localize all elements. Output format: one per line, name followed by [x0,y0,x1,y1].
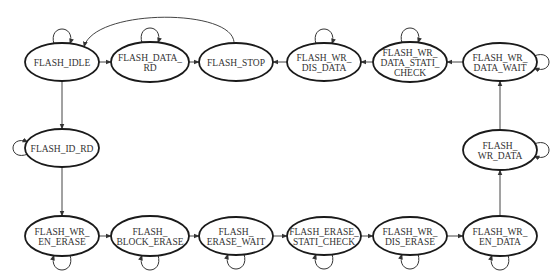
state-flash-id-rd: FLASH_ID_RD [25,129,99,167]
state-label: FLASH_WR_ [383,48,438,58]
state-label: STATI_CHECK [293,237,355,247]
states: FLASH_IDLEFLASH_DATA_RDFLASH_STOPFLASH_W… [25,42,537,256]
state-label: RD [143,63,156,73]
state-label: FLASH_WR_ [473,53,528,63]
state-label: BLOCK_ERASE [116,237,183,247]
state-label: FLASH_ERASE_ [289,227,359,237]
self-loop-flash-data-rd [141,28,159,43]
state-label: ERASE_WAIT [207,237,266,247]
state-label: EN_ERASE [38,237,86,247]
self-loop-flash-erase-stati-check [315,254,333,269]
state-flash-data-rd: FLASH_DATA_RD [111,42,189,82]
state-flash-erase-stati-check: FLASH_ERASE_STATI_CHECK [287,217,361,255]
self-loop-flash-erase-wait [227,254,245,269]
state-flash-wr-en-data: FLASH_WR_EN_DATA [463,216,537,256]
state-label: CHECK [394,68,426,78]
state-flash-wr-data-wait: FLASH_WR_DATA_WAIT [463,43,537,81]
state-label: FLASH_WR_ [297,53,352,63]
state-label: DIS_DATA [302,63,347,73]
state-label: FLASH_WR_ [35,227,90,237]
state-flash-wr-en-erase: FLASH_WR_EN_ERASE [25,216,99,256]
state-flash-erase-wait: FLASH_ERASE_WAIT [199,217,273,255]
self-loop-flash-wr-dis-erase [401,254,419,269]
state-label: FLASH_ID_RD [31,144,94,154]
state-label: WR_DATA [478,151,523,161]
state-flash-wr-dis-erase: FLASH_WR_DIS_ERASE [373,217,447,255]
state-label: DATA_WAIT [473,63,526,73]
self-loop-flash-wr-data-stati-check [401,28,419,43]
state-label: FLASH_ [133,227,168,237]
self-loop-flash-block-erase [141,255,159,270]
state-label: DIS_ERASE [385,237,435,247]
state-label: EN_DATA [479,237,521,247]
self-loop-flash-wr-en-erase [53,255,71,270]
state-flash-wr-data-stati-check: FLASH_WR_DATA_STATI_CHECK [373,42,447,82]
state-label: FLASH_STOP [207,58,265,68]
state-flash-block-erase: FLASH_BLOCK_ERASE [111,216,189,256]
self-loop-flash-wr-en-data [491,255,509,270]
state-flash-idle: FLASH_IDLE [25,43,99,81]
state-label: FLASH_WR_ [473,227,528,237]
state-label: DATA_STATI_ [380,58,439,68]
state-label: FLASH_WR_ [383,227,438,237]
state-diagram: FLASH_IDLEFLASH_DATA_RDFLASH_STOPFLASH_W… [0,0,558,279]
state-flash-stop: FLASH_STOP [199,43,273,81]
state-label: FLASH_ [483,141,518,151]
state-flash-wr-data: FLASH_WR_DATA [463,130,537,170]
state-label: FLASH_ [219,227,254,237]
self-loop-flash-idle [53,29,71,44]
state-flash-wr-dis-data: FLASH_WR_DIS_DATA [287,43,361,81]
state-label: FLASH_DATA_ [118,53,182,63]
self-loop-flash-wr-dis-data [315,29,333,44]
state-label: FLASH_IDLE [34,58,91,68]
